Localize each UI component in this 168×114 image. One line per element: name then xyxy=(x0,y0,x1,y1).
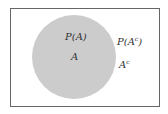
set-a-label: A xyxy=(70,51,78,62)
prob-a-complement-label: P(Ac) xyxy=(116,35,142,47)
prob-a-label: P(A) xyxy=(64,31,87,42)
venn-diagram: P(A) A P(Ac) Ac xyxy=(0,0,168,114)
